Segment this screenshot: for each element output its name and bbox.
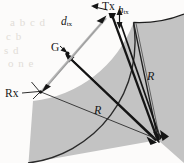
tx-point-marker (109, 13, 117, 19)
label-h-tx: htx (118, 4, 129, 16)
label-tx: Tx (102, 1, 115, 13)
label-radius-bottom: R (94, 104, 101, 116)
label-h-tx-subscript: tx (124, 8, 129, 15)
label-radius-right: R (147, 70, 154, 82)
label-rx: Rx (5, 88, 18, 100)
bleed-through-line-2: c b (6, 30, 22, 42)
bleed-through-line-3: s d (4, 44, 20, 56)
label-d-tx-subscript: tx (67, 20, 72, 28)
rx-angle-mark (32, 82, 41, 99)
figure-diagram: a b c d c b s d o n e Tx htx dtx G Rx R … (0, 0, 184, 163)
rx-point-marker (39, 90, 42, 93)
label-g: G (51, 42, 59, 54)
tx-leader-arrowhead (91, 3, 99, 10)
bleed-through-line-1: a b c d (10, 16, 46, 28)
bleed-through-line-4: o n e (8, 57, 34, 69)
rx-leader-line (22, 92, 39, 94)
label-d-tx: dtx (61, 16, 72, 28)
g-point-marker (66, 52, 70, 56)
